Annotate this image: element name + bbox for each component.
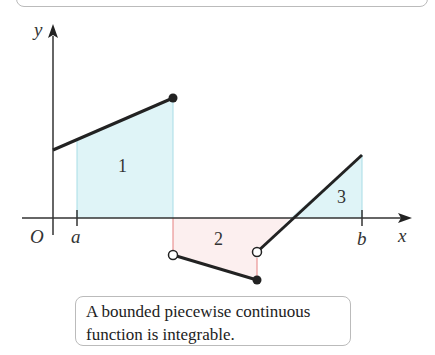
caption-box: A bounded piecewise continuous function … [75,296,351,346]
closed-endpoint-icon [253,276,262,285]
y-axis-arrow-icon [48,24,58,38]
open-endpoint-icon [169,251,178,260]
origin-label: O [30,226,44,247]
b-label: b [357,228,367,249]
y-axis-label: y [32,19,43,40]
open-endpoint-icon [253,248,262,257]
region-2-fill [173,218,257,280]
closed-endpoint-icon [169,94,178,103]
region-2-label: 2 [214,229,223,249]
region-3-label: 3 [337,187,346,207]
region-1-label: 1 [118,156,127,176]
x-axis-label: x [397,225,407,246]
a-label: a [71,226,81,247]
